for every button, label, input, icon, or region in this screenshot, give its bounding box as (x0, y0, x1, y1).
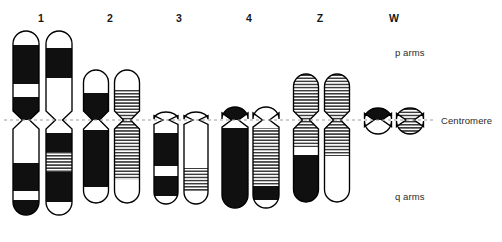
chromosome-label-w: W (374, 12, 414, 24)
chromosome-2-homologue-b-band-1-light (114, 70, 141, 90)
chromosome-label-4: 4 (229, 12, 269, 24)
chromosome-3-homologue-a-band-1-light (153, 112, 179, 120)
chromosome-3-homologue-a-band-3-dark (153, 133, 179, 166)
chromosome-w-homologue-a (364, 108, 393, 134)
chromosome-3-homologue-b-band-4-light (183, 192, 209, 204)
chromosome-1-homologue-a-band-4-dark (12, 97, 40, 120)
chromosome-label-3: 3 (159, 12, 199, 24)
chromosome-3-homologue-a-band-4-light (153, 166, 179, 176)
chromosome-2-homologue-a-band-2-dark (83, 93, 110, 120)
chromosome-w-homologue-a-band-1-dark (364, 108, 393, 120)
chromosome-1-homologue-b-band-6-hatch (45, 152, 73, 172)
chromosome-label-2: 2 (90, 12, 130, 24)
chromosome-2-homologue-a (83, 70, 110, 203)
chromosome-w-homologue-b (396, 108, 425, 134)
chromosome-4-homologue-b-band-4-dark (252, 186, 280, 200)
chromosome-4-homologue-b (252, 107, 280, 208)
chromosome-4-homologue-b-bands (252, 107, 280, 208)
centromere-annotation: Centromere (441, 115, 492, 126)
chromosome-z-homologue-b-band-3-light (324, 156, 351, 202)
chromosome-1-homologue-a-band-6-dark (12, 163, 40, 191)
chromosome-3-homologue-a (153, 112, 179, 204)
chromosome-2-homologue-b-bands (114, 70, 141, 203)
chromosome-4-homologue-a (221, 107, 249, 208)
chromosome-z-homologue-a-band-4-dark (293, 155, 320, 202)
chromosome-z-homologue-a-band-2-hatch (293, 120, 320, 147)
chromosome-1-homologue-a-band-1-light (12, 31, 40, 45)
chromosome-1-homologue-b-band-1-light (45, 31, 73, 48)
chromosome-1-homologue-a-band-7-light (12, 191, 40, 200)
chromosome-3-homologue-b-bands (183, 112, 209, 204)
chromosome-3-homologue-b-band-3-hatch (183, 168, 209, 192)
chromosome-3-homologue-a-band-5-dark (153, 176, 179, 196)
chromosome-1-homologue-b-band-8-light (45, 202, 73, 215)
chromosome-layer (12, 31, 425, 215)
chromosome-4-homologue-a-band-3-dark (221, 128, 249, 208)
chromosome-z-homologue-a-band-3-light (293, 147, 320, 155)
chromosome-1-homologue-a-band-2-dark (12, 45, 40, 84)
chromosome-2-homologue-a-bands (83, 70, 110, 203)
chromosome-3-homologue-b (183, 112, 209, 204)
chromosome-1-homologue-a-band-3-light (12, 84, 40, 97)
chromosome-w-homologue-b-band-1-hatch (396, 108, 425, 120)
q-arms-annotation: q arms (395, 191, 425, 202)
chromosome-4-homologue-a-bands (221, 107, 249, 208)
chromosome-w-homologue-b-band-2-hatch (396, 120, 425, 134)
chromosome-1-homologue-a-band-8-dark (12, 200, 40, 215)
chromosome-1-homologue-b-band-5-dark (45, 133, 73, 152)
chromosome-2-homologue-b-band-2-hatch (114, 90, 141, 120)
chromosome-z-homologue-a-bands (293, 74, 320, 202)
chromosome-1-homologue-b-band-7-dark (45, 172, 73, 202)
chromosome-2-homologue-a-band-4-dark (83, 130, 110, 187)
chromosome-z-homologue-b (324, 74, 351, 202)
chromosome-3-homologue-b-band-2-light (183, 120, 209, 168)
chromosome-4-homologue-a-band-1-dark (221, 107, 249, 120)
karyotype-canvas (0, 0, 502, 242)
chromosome-label-z: Z (300, 12, 340, 24)
chromosome-1-homologue-b-band-2-dark (45, 48, 73, 78)
chromosome-1-homologue-b (45, 31, 73, 215)
chromosome-1-homologue-a-bands (12, 31, 40, 215)
chromosome-label-1: 1 (21, 12, 61, 24)
chromosome-2-homologue-b (114, 70, 141, 203)
ideogram-figure: 1 2 3 4 Z W p arms Centromere q arms (0, 0, 502, 242)
chromosome-2-homologue-b-band-3-hatch (114, 120, 141, 180)
chromosome-4-homologue-b-band-3-hatch (252, 128, 280, 186)
chromosome-3-homologue-b-band-1-light (183, 112, 209, 120)
chromosome-1-homologue-a (12, 31, 40, 215)
chromosome-w-homologue-a-band-2-light (364, 120, 393, 134)
chromosome-3-homologue-a-bands (153, 112, 179, 204)
chromosome-4-homologue-b-band-1-light (252, 107, 280, 120)
p-arms-annotation: p arms (395, 47, 425, 58)
chromosome-z-homologue-a (293, 74, 320, 202)
chromosome-z-homologue-b-bands (324, 74, 351, 202)
chromosome-1-homologue-b-bands (45, 31, 73, 215)
chromosome-3-homologue-a-band-2-light (153, 120, 179, 133)
chromosome-2-homologue-a-band-5-light (83, 187, 110, 203)
